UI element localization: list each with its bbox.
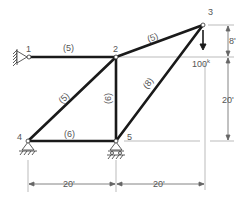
- members: [28, 25, 203, 141]
- member-label-4-5: (6): [64, 129, 75, 139]
- node-label-4: 4: [17, 132, 22, 142]
- wall-pin-support-icon: [13, 49, 27, 66]
- dim-horizontal-right: 20': [153, 179, 165, 189]
- joint-3: [201, 23, 205, 27]
- member-label-2-5: (6): [103, 93, 113, 104]
- node-label-5: 5: [127, 132, 132, 142]
- dimension-lines: [29, 26, 230, 186]
- node-label-3: 3: [208, 7, 213, 17]
- dim-vertical-bottom: 20': [222, 95, 234, 105]
- joint-1: [27, 55, 31, 59]
- dim-vertical-top: 8': [229, 36, 236, 46]
- member-3-5: [116, 25, 203, 141]
- pin-support-icon: [19, 142, 37, 155]
- truss-diagram: 1 2 3 4 5 (5) (5) (5) (6) (6) (8) 100k 8…: [0, 0, 248, 203]
- roller-support-icon: [107, 142, 125, 159]
- joint-5: [114, 139, 118, 143]
- joint-2: [114, 55, 118, 59]
- node-label-1: 1: [26, 44, 31, 54]
- load-label: 100k: [192, 58, 211, 69]
- member-label-3-5: (8): [141, 76, 156, 91]
- dim-horizontal-left: 20': [63, 179, 75, 189]
- member-label-1-2: (5): [63, 43, 74, 53]
- node-label-2: 2: [113, 44, 118, 54]
- load-arrow-icon: [200, 30, 206, 50]
- joint-4: [26, 139, 30, 143]
